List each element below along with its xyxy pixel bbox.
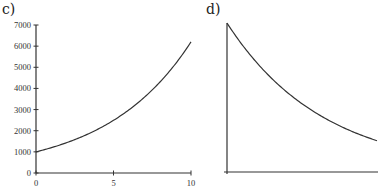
chart-c: 010002000300040005000600070000510 — [14, 20, 195, 188]
chart-d — [224, 23, 378, 174]
y-tick-label: 6000 — [14, 41, 31, 51]
charts-canvas: 010002000300040005000600070000510 — [0, 0, 378, 194]
y-tick-label: 2000 — [14, 126, 31, 136]
decay-curve — [227, 23, 377, 141]
y-tick-label: 1000 — [14, 147, 31, 157]
growth-curve — [36, 42, 191, 152]
y-tick-label: 4000 — [14, 83, 31, 93]
x-tick-label: 0 — [34, 178, 38, 188]
y-tick-label: 5000 — [14, 62, 31, 72]
x-tick-label: 10 — [187, 178, 196, 188]
y-tick-label: 3000 — [14, 105, 31, 115]
y-tick-label: 0 — [27, 168, 31, 178]
y-tick-label: 7000 — [14, 20, 31, 30]
x-tick-label: 5 — [111, 178, 115, 188]
